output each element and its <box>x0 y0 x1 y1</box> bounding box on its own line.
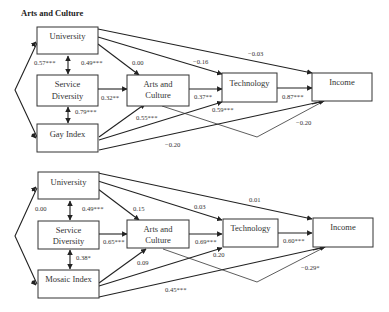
label-culture: Culture <box>145 235 171 245</box>
label-income: Income <box>329 77 355 87</box>
coef-university-arts: 0.00 <box>132 59 144 66</box>
label-technology: Technology <box>230 223 271 233</box>
coef-university-index: 0.57*** <box>34 59 55 66</box>
coef-service-index: 0.79*** <box>75 108 96 115</box>
coef-index-technology: 0.20 <box>213 251 225 258</box>
diagram-mosaic-index: University Service Diversity Mosaic Inde… <box>15 172 373 298</box>
coef-arts-income: −0.20 <box>296 119 312 126</box>
path-diagrams: University Service Diversity Gay Index A… <box>0 0 389 312</box>
label-diversity: Diversity <box>52 91 84 101</box>
edge-index-technology <box>99 248 222 286</box>
coef-index-income: −0.20 <box>165 141 181 148</box>
label-service: Service <box>56 225 82 235</box>
coef-technology-income: 0.87*** <box>282 93 303 100</box>
diagram-gay-index: University Service Diversity Gay Index A… <box>15 27 372 152</box>
edge-university-income <box>98 173 312 219</box>
label-arts: Arts and <box>143 79 173 89</box>
label-service: Service <box>55 79 81 89</box>
label-income: Income <box>330 222 356 232</box>
coef-service-arts: 0.65*** <box>103 238 124 245</box>
coef-arts-technology: 0.37** <box>194 93 212 100</box>
edge-university-income <box>98 29 312 73</box>
coef-university-service: 0.49*** <box>82 205 103 212</box>
coef-university-technology: −0.16 <box>193 58 209 65</box>
coef-university-income: 0.01 <box>249 196 261 203</box>
label-arts: Arts and <box>143 224 173 234</box>
edge-index-technology <box>99 102 222 140</box>
label-technology: Technology <box>229 78 270 88</box>
coef-university-technology: 0.03 <box>194 203 206 210</box>
edge-index-income <box>99 247 325 297</box>
coef-service-arts: 0.32** <box>101 94 119 101</box>
coef-arts-technology: 0.69*** <box>195 238 216 245</box>
coef-index-arts: 0.09 <box>137 259 149 266</box>
coef-technology-income: 0.60*** <box>283 237 304 244</box>
label-gay-index: Gay Index <box>50 129 86 139</box>
coef-university-arts: 0.15 <box>133 205 145 212</box>
edge-university-index-corr <box>15 43 37 137</box>
coef-arts-income: −0.29* <box>301 264 320 271</box>
label-mosaic-index: Mosaic Index <box>45 274 92 284</box>
label-culture: Culture <box>145 90 171 100</box>
edge-index-arts <box>99 249 146 283</box>
coef-university-index: 0.00 <box>35 205 47 212</box>
label-university: University <box>50 31 87 41</box>
label-diversity: Diversity <box>53 236 85 246</box>
coef-index-technology: 0.59*** <box>212 106 233 113</box>
coef-index-income: 0.45*** <box>165 286 186 293</box>
coef-service-index: 0.38* <box>76 254 91 261</box>
label-university: University <box>51 177 88 187</box>
edge-university-index-corr <box>15 188 37 284</box>
coef-index-arts: 0.55*** <box>136 114 157 121</box>
coef-university-service: 0.49*** <box>81 59 102 66</box>
edge-university-technology <box>98 37 222 74</box>
coef-university-income: −0.03 <box>248 50 264 57</box>
